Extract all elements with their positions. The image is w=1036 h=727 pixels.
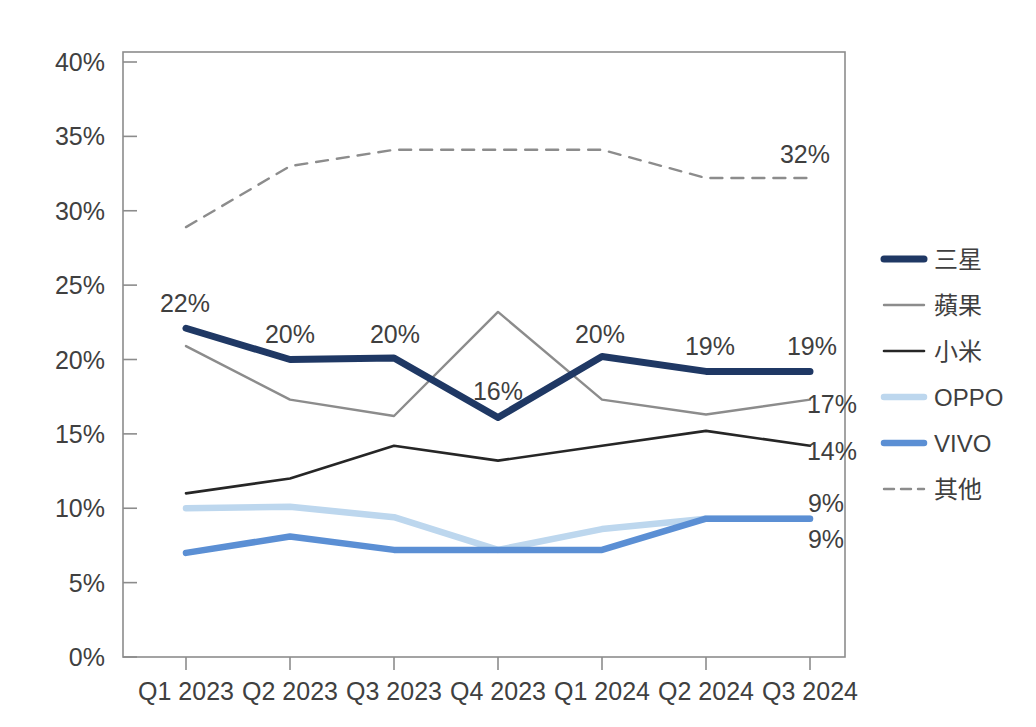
legend-item-label[interactable]: OPPO (934, 384, 1003, 411)
y-tick-label: 40% (55, 48, 105, 76)
y-axis-ticks (123, 62, 137, 657)
x-tick-label: Q4 2023 (450, 677, 546, 705)
data-value-label: 20% (370, 320, 420, 348)
data-value-labels: 22%20%20%16%20%19%19%32%17%14%9%9% (160, 140, 857, 553)
chart-legend: 三星蘋果小米OPPOVIVO其他 (884, 246, 1003, 503)
x-tick-label: Q2 2024 (658, 677, 754, 705)
x-tick-label: Q3 2023 (346, 677, 442, 705)
plot-area-border (123, 52, 845, 657)
y-tick-label: 0% (69, 643, 105, 671)
x-tick-label: Q1 2024 (554, 677, 650, 705)
legend-item-label[interactable]: 其他 (934, 476, 982, 503)
data-value-label: 17% (807, 390, 857, 418)
x-tick-label: Q3 2024 (762, 677, 858, 705)
y-axis-tick-labels: 0%5%10%15%20%25%30%35%40% (55, 48, 105, 671)
data-value-label: 20% (265, 320, 315, 348)
data-value-label: 32% (780, 140, 830, 168)
data-value-label: 19% (787, 332, 837, 360)
data-value-label: 14% (807, 437, 857, 465)
data-value-label: 9% (808, 525, 844, 553)
data-value-label: 16% (473, 377, 523, 405)
series-line (186, 431, 810, 493)
y-tick-label: 35% (55, 122, 105, 150)
legend-item-label[interactable]: 蘋果 (934, 292, 982, 319)
x-tick-label: Q1 2023 (138, 677, 234, 705)
legend-item-label[interactable]: 小米 (934, 338, 982, 365)
y-tick-label: 20% (55, 346, 105, 374)
chart-canvas: 0%5%10%15%20%25%30%35%40% Q1 2023Q2 2023… (0, 0, 1036, 727)
data-value-label: 22% (160, 289, 210, 317)
legend-item-label[interactable]: 三星 (934, 246, 982, 273)
data-value-label: 9% (808, 489, 844, 517)
y-tick-label: 5% (69, 569, 105, 597)
series-line (186, 519, 810, 553)
series-line (186, 150, 810, 227)
y-tick-label: 15% (55, 420, 105, 448)
x-tick-label: Q2 2023 (242, 677, 338, 705)
x-axis-tick-labels: Q1 2023Q2 2023Q3 2023Q4 2023Q1 2024Q2 20… (138, 677, 858, 705)
series-line (186, 507, 810, 550)
legend-item-label[interactable]: VIVO (934, 430, 991, 457)
data-value-label: 19% (685, 332, 735, 360)
y-tick-label: 25% (55, 271, 105, 299)
y-tick-label: 10% (55, 494, 105, 522)
y-tick-label: 30% (55, 197, 105, 225)
x-axis-ticks (186, 657, 810, 670)
line-chart: 0%5%10%15%20%25%30%35%40% Q1 2023Q2 2023… (0, 0, 1036, 727)
data-value-label: 20% (575, 320, 625, 348)
